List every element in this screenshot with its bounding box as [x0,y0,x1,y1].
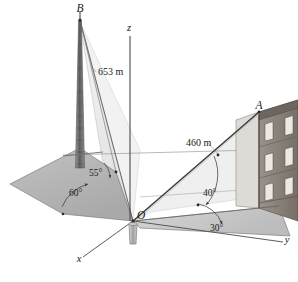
building-window [285,177,293,196]
label-angle-60: 60° [69,188,83,198]
building-window [265,183,273,201]
x-axis [83,221,133,257]
projection-node-dot [197,204,200,207]
building [236,100,298,221]
label-axis-x: x [76,253,82,264]
label-angle-55: 55° [89,168,103,178]
label-point-B: B [76,2,83,14]
point-B-dot [79,19,82,22]
origin-dot [131,219,134,222]
label-axis-z: z [126,22,131,33]
point-A-dot [258,111,261,114]
building-window [265,153,273,172]
label-point-O: O [137,209,146,221]
building-window [285,116,293,136]
ground-node-dot [115,171,118,174]
building-window [265,122,273,141]
label-dimension-653m: 653 m [98,66,124,77]
figure-canvas: B O A z y x 653 m 460 m 55° 60° 40° 30° [0,0,298,282]
building-side-wall [236,112,259,208]
marker-post-cap [129,222,137,225]
label-axis-y: y [284,234,290,245]
label-dimension-460m: 460 m [186,137,212,148]
left-ground-node-dot [62,213,65,216]
building-window [285,147,293,167]
label-angle-30: 30° [210,223,224,233]
origin-marker-post [129,219,137,244]
cable-midpoint-dot [217,154,220,157]
statics-figure: B O A z y x 653 m 460 m 55° 60° 40° 30° [0,0,298,282]
label-point-A: A [254,99,263,111]
label-angle-40: 40° [203,188,217,198]
marker-post-body [129,224,137,244]
